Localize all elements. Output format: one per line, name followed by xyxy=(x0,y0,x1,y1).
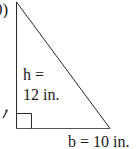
right-angle-marker-icon xyxy=(17,114,32,129)
right-triangle-diagram: 0) h = 12 in. b = 10 in. xyxy=(0,0,136,149)
height-label-line1: h = xyxy=(23,67,44,83)
base-label: b = 10 in. xyxy=(68,134,129,149)
triangle-figure xyxy=(0,0,136,149)
pointer-tick-icon xyxy=(3,111,7,118)
height-label-line2: 12 in. xyxy=(23,87,59,103)
